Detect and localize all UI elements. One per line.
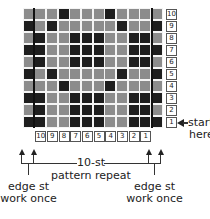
repeat-bracket-left [21, 163, 77, 164]
chart-cell [59, 93, 69, 104]
chart-cell [105, 21, 115, 32]
chart-cell [140, 81, 150, 92]
row-number: 8 [166, 33, 177, 44]
left-edge-arrow-icon [19, 149, 25, 155]
chart-cell [35, 69, 45, 80]
chart-cell [129, 81, 139, 92]
chart-cell [117, 45, 127, 56]
left-edge-leader [28, 163, 29, 175]
right-repeat-boundary [151, 8, 153, 128]
row-number: 1 [166, 117, 177, 128]
left-repeat-stem [33, 155, 34, 163]
right-edge-arrow-icon [158, 149, 164, 155]
chart-cell [70, 9, 80, 20]
chart-cell [70, 105, 80, 116]
column-number: 10 [35, 131, 46, 142]
chart-cell [140, 93, 150, 104]
chart-cell [129, 57, 139, 68]
chart-cell [140, 69, 150, 80]
chart-cell [129, 105, 139, 116]
chart-cell [59, 105, 69, 116]
chart-cell [105, 93, 115, 104]
chart-cell [82, 117, 92, 128]
row-number: 6 [166, 57, 177, 68]
repeat-label-line1: 10-st [77, 157, 105, 169]
chart-cell [129, 93, 139, 104]
chart-cell [94, 117, 104, 128]
chart-cell [105, 33, 115, 44]
chart-cell [105, 105, 115, 116]
chart-cell [105, 57, 115, 68]
chart-cell [82, 57, 92, 68]
chart-cell [152, 33, 162, 44]
chart-cell [35, 105, 45, 116]
chart-cell [105, 69, 115, 80]
chart-cell [35, 21, 45, 32]
chart-cell [94, 9, 104, 20]
chart-cell [105, 117, 115, 128]
repeat-label-line2: pattern repeat [50, 170, 132, 182]
chart-cell [129, 117, 139, 128]
chart-cell [82, 21, 92, 32]
chart-cell [59, 45, 69, 56]
chart-cell [105, 81, 115, 92]
chart-cell [47, 105, 57, 116]
column-number: 7 [70, 131, 81, 142]
chart-cell [70, 33, 80, 44]
chart-cell [117, 105, 127, 116]
chart-cell [94, 105, 104, 116]
chart-cell [152, 57, 162, 68]
here-label: here [189, 129, 210, 141]
column-number: 2 [129, 131, 140, 142]
chart-cell [70, 117, 80, 128]
chart-cell [117, 81, 127, 92]
left-edge-label-line2: work once [0, 193, 57, 205]
chart-cell [35, 33, 45, 44]
chart-cell [59, 33, 69, 44]
chart-cell [105, 45, 115, 56]
chart-cell [152, 69, 162, 80]
chart-cell [152, 21, 162, 32]
row-number: 5 [166, 69, 177, 80]
chart-cell [47, 33, 57, 44]
chart-cell [82, 33, 92, 44]
chart-cell [152, 117, 162, 128]
chart-cell [129, 9, 139, 20]
chart-cell [117, 57, 127, 68]
chart-cell [94, 33, 104, 44]
chart-cell [94, 69, 104, 80]
chart-cell [70, 81, 80, 92]
chart-cell [117, 69, 127, 80]
right-edge-leader [154, 163, 155, 175]
chart-cell [117, 93, 127, 104]
chart-cell [140, 21, 150, 32]
chart-cell [140, 105, 150, 116]
chart-cell [94, 93, 104, 104]
chart-cell [94, 57, 104, 68]
chart-cell [117, 117, 127, 128]
chart-cell [70, 45, 80, 56]
chart-cell [152, 9, 162, 20]
chart-cell [47, 9, 57, 20]
column-number: 1 [140, 131, 151, 142]
chart-cell [82, 105, 92, 116]
repeat-bracket-right [104, 163, 161, 164]
chart-cell [117, 33, 127, 44]
chart-cell [152, 105, 162, 116]
right-repeat-arrow-icon [146, 149, 152, 155]
chart-cell [59, 9, 69, 20]
knitting-chart-grid [23, 8, 163, 128]
chart-cell [129, 69, 139, 80]
chart-cell [35, 45, 45, 56]
column-number: 3 [117, 131, 128, 142]
chart-cell [35, 57, 45, 68]
chart-cell [59, 57, 69, 68]
right-repeat-stem [148, 155, 149, 163]
chart-cell [47, 21, 57, 32]
left-edge-stem [21, 155, 22, 163]
column-number: 6 [82, 131, 93, 142]
chart-cell [82, 93, 92, 104]
chart-cell [82, 9, 92, 20]
chart-cell [47, 117, 57, 128]
row-number: 4 [166, 81, 177, 92]
